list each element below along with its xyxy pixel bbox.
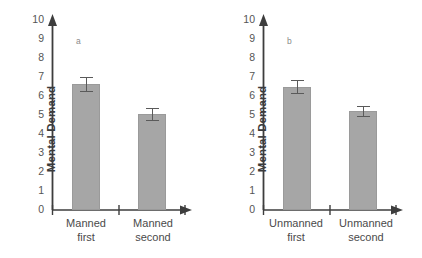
error-bar-cap-lower-manned-first	[80, 91, 93, 92]
x-category-label-line1: Manned	[52, 216, 120, 230]
error-bar-line-manned-second	[152, 108, 153, 120]
error-bar-cap-upper-manned-second	[146, 108, 159, 109]
x-category-label-line1: Manned	[118, 216, 188, 230]
chart-panel-a: Mental Demand 0 1 2 3 4 5 6 7 8 9 10	[0, 0, 211, 258]
error-bar-cap-lower-unmanned-first	[291, 93, 304, 94]
panel-annotation-a: a	[76, 36, 81, 46]
error-bar-cap-upper-unmanned-first	[291, 80, 304, 81]
bar-manned-first	[72, 84, 100, 210]
error-bar-line-unmanned-first	[297, 80, 298, 93]
x-category-label-line2: second	[327, 230, 405, 244]
bar-unmanned-first	[283, 87, 311, 210]
x-category-label-manned-second: Manned second	[118, 216, 188, 244]
x-category-label-line2: first	[52, 230, 120, 244]
error-bar-cap-upper-manned-first	[80, 77, 93, 78]
error-bar-cap-lower-unmanned-second	[357, 116, 370, 117]
x-axis-arrowhead-icon	[180, 206, 192, 215]
error-bar-line-unmanned-second	[363, 106, 364, 116]
x-category-label-unmanned-first: Unmanned first	[259, 216, 333, 244]
x-category-label-line2: first	[259, 230, 333, 244]
error-bar-line-manned-first	[86, 77, 87, 91]
x-category-label-manned-first: Manned first	[52, 216, 120, 244]
y-axis-arrowhead-icon	[48, 14, 57, 26]
error-bar-cap-upper-unmanned-second	[357, 106, 370, 107]
x-category-label-line2: second	[118, 230, 188, 244]
bar-unmanned-second	[349, 111, 377, 210]
x-category-label-line1: Unmanned	[259, 216, 333, 230]
figure-two-panel-bar-charts: Mental Demand 0 1 2 3 4 5 6 7 8 9 10	[0, 0, 422, 258]
panel-annotation-b: b	[287, 36, 292, 46]
y-axis-arrowhead-icon	[259, 14, 268, 26]
x-category-label-line1: Unmanned	[327, 216, 405, 230]
x-category-label-unmanned-second: Unmanned second	[327, 216, 405, 244]
bar-manned-second	[138, 114, 166, 210]
x-axis-arrowhead-icon	[391, 206, 403, 215]
error-bar-cap-lower-manned-second	[146, 120, 159, 121]
chart-panel-b: Mental Demand 0 1 2 3 4 5 6 7 8 9 10	[211, 0, 422, 258]
